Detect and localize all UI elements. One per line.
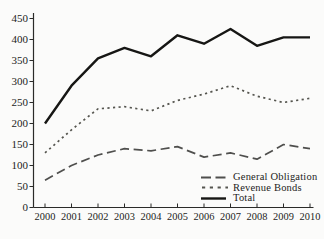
x-axis-tick-label: 2010 [300,211,321,222]
x-axis-tick-label: 2000 [35,211,56,222]
x-axis-tick-label: 2002 [88,211,109,222]
y-axis-tick-label: 450 [12,12,29,24]
legend-item-general-obligation: General Obligation [201,172,317,183]
y-axis-tick-label: 100 [12,159,29,171]
solid-line-icon [201,195,228,202]
y-axis-tick-label: 400 [12,33,29,45]
x-axis-tick-label: 2006 [194,211,215,222]
y-axis-tick-label: 300 [12,75,29,87]
y-axis-tick-label: 0 [23,201,29,213]
y-axis-tick-label: 150 [12,138,29,150]
x-axis-tick-label: 2008 [247,211,268,222]
x-axis-tick-label: 2009 [273,211,294,222]
dotted-line-icon [201,184,228,191]
legend-item-total: Total [201,193,317,204]
series-line-revenue-bonds [45,86,310,153]
chart-legend: General Obligation Revenue Bonds Total [201,172,317,204]
x-axis-tick-label: 2003 [114,211,135,222]
y-axis-tick-label: 50 [17,180,29,192]
bond-issuance-line-chart: 0501001502002503003504004502000200120022… [0,0,324,239]
legend-label-general-obligation: General Obligation [233,172,317,183]
x-axis-tick-label: 2007 [220,211,241,222]
x-axis-tick-label: 2004 [141,211,163,222]
legend-item-revenue-bonds: Revenue Bonds [201,183,317,194]
series-line-total [45,29,310,124]
x-axis-tick-label: 2005 [167,211,188,222]
long-dash-line-icon [201,174,228,181]
y-axis-tick-label: 200 [12,117,29,129]
y-axis-tick-label: 350 [12,54,29,66]
y-axis-tick-label: 250 [12,96,29,108]
x-axis-tick-label: 2001 [61,211,82,222]
legend-label-total: Total [233,193,255,204]
